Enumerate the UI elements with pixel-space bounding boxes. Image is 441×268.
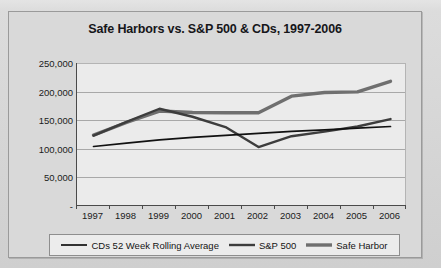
legend-label: CDs 52 Week Rolling Average <box>91 240 218 251</box>
x-axis-tick-label: 2005 <box>346 210 367 221</box>
x-axis-tick-label: 1998 <box>115 210 136 221</box>
series-line <box>94 81 391 135</box>
x-axis-tick-mark <box>373 206 374 209</box>
x-axis-tick-mark <box>109 206 110 209</box>
x-axis-labels: 1997199819992000200120022003200420052006 <box>76 210 406 224</box>
x-axis-tick-mark <box>274 206 275 209</box>
x-axis-tick-mark <box>208 206 209 209</box>
x-axis-tick-label: 1999 <box>148 210 169 221</box>
y-axis-tick-label: 100,000 <box>15 143 73 154</box>
x-axis-tick-mark <box>307 206 308 209</box>
x-axis-tick-label: 2002 <box>247 210 268 221</box>
x-axis-tick-label: 1997 <box>82 210 103 221</box>
x-axis-tick-label: 2006 <box>379 210 400 221</box>
legend-item: S&P 500 <box>224 240 301 251</box>
legend-line-swatch <box>61 241 87 249</box>
legend-line-swatch <box>229 241 255 249</box>
x-axis-tick-label: 2004 <box>313 210 334 221</box>
legend-item: CDs 52 Week Rolling Average <box>56 240 223 251</box>
legend-item: Safe Harbor <box>301 240 392 251</box>
y-axis-tick-label: 250,000 <box>15 58 73 69</box>
y-axis-tick-label: 150,000 <box>15 115 73 126</box>
y-axis-tick-label: 50,000 <box>15 172 73 183</box>
x-axis-tick-mark <box>76 206 77 209</box>
x-axis-tick-label: 2001 <box>214 210 235 221</box>
plot-area <box>76 63 406 206</box>
chart-figure: Safe Harbors vs. S&P 500 & CDs, 1997-200… <box>0 0 441 268</box>
legend-label: Safe Harbor <box>336 240 387 251</box>
x-axis-tick-mark <box>405 206 406 209</box>
y-axis-tick-label: - <box>15 201 73 212</box>
y-axis-labels: 250,000200,000150,000100,00050,000- <box>11 63 73 206</box>
x-axis-tick-mark <box>340 206 341 209</box>
x-axis-tick-label: 2000 <box>181 210 202 221</box>
x-axis-tick-mark <box>142 206 143 209</box>
chart-frame: Safe Harbors vs. S&P 500 & CDs, 1997-200… <box>8 11 422 258</box>
y-axis-tick-label: 200,000 <box>15 86 73 97</box>
chart-legend: CDs 52 Week Rolling AverageS&P 500Safe H… <box>49 234 400 256</box>
legend-label: S&P 500 <box>259 240 296 251</box>
legend-line-swatch <box>306 241 332 249</box>
x-axis-tick-mark <box>241 206 242 209</box>
chart-title: Safe Harbors vs. S&P 500 & CDs, 1997-200… <box>9 22 421 36</box>
x-axis-tick-mark <box>175 206 176 209</box>
plot-lines <box>77 63 407 206</box>
x-axis-tick-label: 2003 <box>280 210 301 221</box>
